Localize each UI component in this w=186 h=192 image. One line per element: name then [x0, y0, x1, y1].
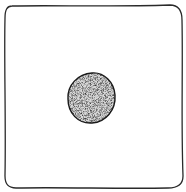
stippled-dot [60, 65, 125, 130]
illustration [0, 0, 186, 192]
illustration-svg [0, 0, 186, 192]
